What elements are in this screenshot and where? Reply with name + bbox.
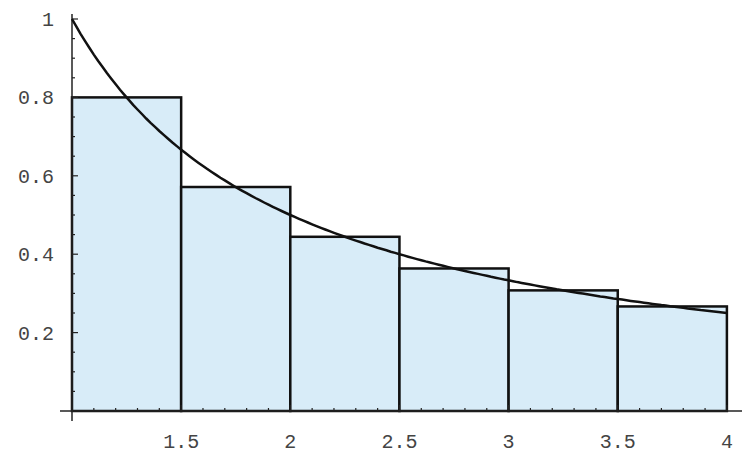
x-tick-label: 1.5 [163, 431, 199, 454]
bar-5 [509, 290, 618, 411]
bar-6 [618, 306, 727, 411]
bar-3 [290, 237, 399, 411]
x-tick-label: 3 [503, 431, 515, 454]
y-tick-label: 0.8 [18, 87, 54, 110]
bar-2 [181, 187, 290, 411]
y-tick-label: 0.4 [18, 244, 54, 267]
x-tick-label: 4 [721, 431, 733, 454]
chart: 1.522.533.540.20.40.60.81 [0, 0, 749, 458]
x-tick-label: 2.5 [381, 431, 417, 454]
y-tick-label: 0.2 [18, 323, 54, 346]
x-tick-label: 3.5 [600, 431, 636, 454]
bar-4 [399, 268, 508, 411]
y-tick-label: 1 [42, 9, 54, 32]
bar-1 [72, 97, 181, 411]
x-tick-label: 2 [284, 431, 296, 454]
y-tick-label: 0.6 [18, 166, 54, 189]
